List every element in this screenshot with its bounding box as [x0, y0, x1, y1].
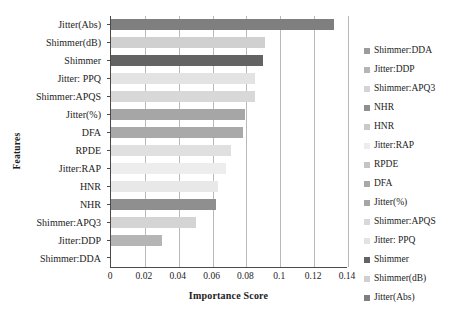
legend-item[interactable]: RPDE — [364, 155, 468, 174]
y-axis-category-label: Jitter: PPQ — [14, 70, 106, 88]
feature-importance-chart: Features Jitter(Abs)Shimmer(dB)ShimmerJi… — [0, 0, 470, 326]
legend-item[interactable]: DFA — [364, 174, 468, 193]
legend-swatch-icon — [364, 181, 370, 187]
legend-item[interactable]: Shimmer:APQS — [364, 212, 468, 231]
bar — [111, 145, 231, 156]
legend-label: HNR — [374, 122, 394, 132]
bar-row — [111, 124, 347, 142]
legend-label: Shimmer:APQS — [374, 217, 436, 227]
legend-swatch-icon — [364, 86, 370, 92]
legend-swatch-icon — [364, 124, 370, 130]
legend-label: Jitter: PPQ — [374, 236, 415, 246]
legend-item[interactable]: Jitter(%) — [364, 193, 468, 212]
legend-label: NHR — [374, 103, 394, 113]
bar-row — [111, 88, 347, 106]
legend: Shimmer:DDAJitter:DDPShimmer:APQ3NHRHNRJ… — [364, 41, 468, 307]
bar-series — [111, 16, 347, 267]
y-axis-category-label: Jitter(%) — [14, 106, 106, 124]
y-axis-category-label: RPDE — [14, 142, 106, 160]
legend-swatch-icon — [364, 143, 370, 149]
bar — [111, 163, 226, 174]
y-axis-category-label: Shimmer:APQS — [14, 88, 106, 106]
y-axis-category-label: Shimmer:DDA — [14, 250, 106, 268]
y-axis-category-label: Shimmer(dB) — [14, 34, 106, 52]
bar-row — [111, 34, 347, 52]
legend-swatch-icon — [364, 276, 370, 282]
bar-row — [111, 231, 347, 249]
legend-item[interactable]: Jitter:DDP — [364, 60, 468, 79]
legend-swatch-icon — [364, 219, 370, 225]
legend-swatch-icon — [364, 295, 370, 301]
y-axis-category-label: Jitter:DDP — [14, 232, 106, 250]
legend-item[interactable]: Shimmer:DDA — [364, 41, 468, 60]
y-axis-category-label: Jitter(Abs) — [14, 16, 106, 34]
legend-swatch-icon — [364, 238, 370, 244]
legend-label: Shimmer(dB) — [374, 274, 426, 284]
legend-label: Shimmer:DDA — [374, 46, 432, 56]
legend-swatch-icon — [364, 105, 370, 111]
bar-row — [111, 70, 347, 88]
y-axis-category-label: NHR — [14, 196, 106, 214]
y-axis-category-label: DFA — [14, 124, 106, 142]
bar — [111, 109, 245, 120]
x-axis-tick-labels: 00.020.040.060.080.10.120.14 — [110, 271, 347, 287]
bar-row — [111, 141, 347, 159]
legend-swatch-icon — [364, 162, 370, 168]
legend-swatch-icon — [364, 257, 370, 263]
x-axis-tick-label: 0.02 — [136, 271, 153, 281]
bar-row — [111, 213, 347, 231]
legend-label: Jitter:DDP — [374, 65, 415, 75]
x-axis-tick-label: 0.08 — [237, 271, 254, 281]
y-axis-tick — [107, 257, 111, 258]
x-axis-tick-label: 0.14 — [339, 271, 356, 281]
bar-row — [111, 106, 347, 124]
bar-row — [111, 159, 347, 177]
legend-label: DFA — [374, 179, 392, 189]
bar — [111, 55, 263, 66]
x-axis-tick-label: 0.06 — [203, 271, 220, 281]
bar-row — [111, 249, 347, 267]
legend-swatch-icon — [364, 67, 370, 73]
x-axis-title: Importance Score — [110, 290, 347, 301]
legend-swatch-icon — [364, 200, 370, 206]
legend-item[interactable]: Jitter:RAP — [364, 136, 468, 155]
legend-label: Jitter(Abs) — [374, 293, 415, 303]
y-axis-category-label: HNR — [14, 178, 106, 196]
y-axis-category-label: Jitter:RAP — [14, 160, 106, 178]
x-axis-tick-label: 0.1 — [273, 271, 285, 281]
bar-row — [111, 195, 347, 213]
bar — [111, 199, 216, 210]
legend-item[interactable]: Jitter: PPQ — [364, 231, 468, 250]
legend-item[interactable]: Shimmer — [364, 250, 468, 269]
bar-row — [111, 52, 347, 70]
legend-item[interactable]: HNR — [364, 117, 468, 136]
bar — [111, 73, 255, 84]
bar — [111, 19, 334, 30]
x-axis-tick-label: 0.12 — [305, 271, 322, 281]
legend-item[interactable]: Shimmer(dB) — [364, 269, 468, 288]
legend-swatch-icon — [364, 48, 370, 54]
bar — [111, 217, 196, 228]
legend-item[interactable]: Jitter(Abs) — [364, 288, 468, 307]
legend-label: Jitter(%) — [374, 198, 407, 208]
gridline — [348, 16, 349, 267]
legend-label: Shimmer:APQ3 — [374, 84, 435, 94]
legend-label: Shimmer — [374, 255, 409, 265]
bar — [111, 37, 265, 48]
legend-item[interactable]: NHR — [364, 98, 468, 117]
bar — [111, 127, 243, 138]
y-axis-tick-labels: Jitter(Abs)Shimmer(dB)ShimmerJitter: PPQ… — [14, 16, 106, 268]
bar — [111, 181, 218, 192]
x-axis-tick-label: 0.04 — [169, 271, 186, 281]
bar-row — [111, 16, 347, 34]
legend-item[interactable]: Shimmer:APQ3 — [364, 79, 468, 98]
bar — [111, 235, 162, 246]
y-axis-category-label: Shimmer:APQ3 — [14, 214, 106, 232]
legend-label: Jitter:RAP — [374, 141, 414, 151]
y-axis-category-label: Shimmer — [14, 52, 106, 70]
plot-area — [110, 16, 347, 268]
x-axis-tick-label: 0 — [108, 271, 113, 281]
bar-row — [111, 177, 347, 195]
bar — [111, 91, 255, 102]
legend-label: RPDE — [374, 160, 398, 170]
